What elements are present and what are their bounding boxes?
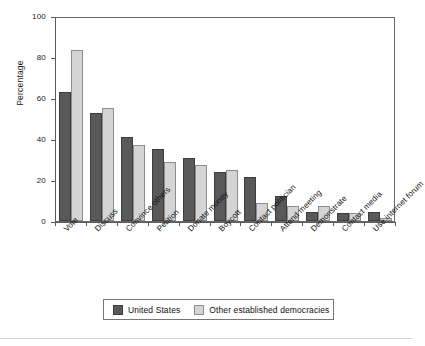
bar-group (121, 18, 148, 221)
bar-group (214, 18, 241, 221)
y-axis-tick-label: 60 (0, 94, 46, 103)
y-axis-title: Percentage (15, 33, 25, 133)
bar (152, 149, 164, 221)
bar-group (337, 18, 364, 221)
x-axis-tick (240, 222, 241, 226)
bar-group (244, 18, 271, 221)
bar (102, 108, 114, 221)
x-axis-tick (364, 222, 365, 226)
x-axis-tick (55, 222, 56, 226)
y-axis-tick-label: 40 (0, 135, 46, 144)
y-axis-tick (51, 181, 55, 182)
bar-group (183, 18, 210, 221)
bar-group (90, 18, 117, 221)
light-gray-swatch-icon (194, 305, 204, 315)
legend-label-other-democracies: Other established democracies (209, 305, 329, 315)
bar-group (368, 18, 395, 221)
x-axis-tick (395, 222, 396, 226)
x-axis-tick (333, 222, 334, 226)
y-axis-tick-label: 100 (0, 12, 46, 21)
bar (71, 50, 83, 221)
y-axis-tick-label: 0 (0, 217, 46, 226)
legend-label-united-states: United States (128, 305, 180, 315)
dark-gray-swatch-icon (113, 305, 123, 315)
y-axis-tick (51, 58, 55, 59)
bar (183, 158, 195, 221)
x-axis-tick (148, 222, 149, 226)
bottom-divider (0, 338, 412, 339)
y-axis-tick (51, 99, 55, 100)
legend-item-other-democracies: Other established democracies (194, 305, 329, 315)
x-axis-tick (302, 222, 303, 226)
x-axis-tick (117, 222, 118, 226)
x-axis-tick (86, 222, 87, 226)
bar (59, 92, 71, 221)
legend-item-united-states: United States (113, 305, 180, 315)
y-axis-tick (51, 17, 55, 18)
y-axis-line (55, 17, 56, 222)
y-axis-tick-label: 80 (0, 53, 46, 62)
bar (244, 177, 256, 221)
x-axis-tick (210, 222, 211, 226)
bar (90, 113, 102, 221)
bar (121, 137, 133, 221)
y-axis-tick-label: 20 (0, 176, 46, 185)
x-axis-tick (271, 222, 272, 226)
chart-legend: United States Other established democrac… (103, 299, 334, 320)
bar-group (59, 18, 86, 221)
y-axis-tick (51, 140, 55, 141)
x-axis-tick (179, 222, 180, 226)
